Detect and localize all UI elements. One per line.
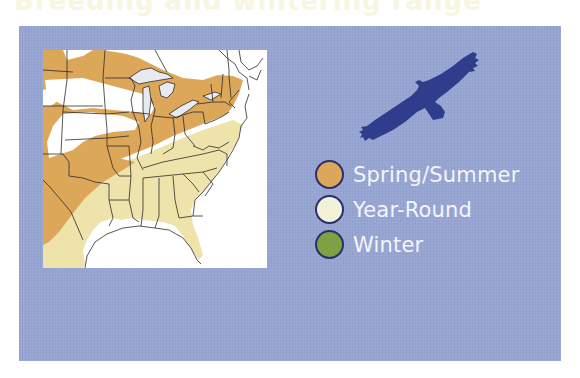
legend-item-year-round: Year-Round: [315, 192, 520, 227]
legend-label: Year-Round: [353, 198, 472, 222]
range-map-graphic: [43, 50, 267, 268]
legend-label: Spring/Summer: [353, 163, 520, 187]
range-map-panel: Spring/Summer Year-Round Winter: [19, 26, 561, 361]
year-round-swatch: [315, 195, 344, 224]
legend-label: Winter: [353, 233, 423, 257]
winter-swatch: [315, 230, 344, 259]
legend: Spring/Summer Year-Round Winter: [315, 157, 520, 262]
page-title: Breeding and wintering range: [14, 0, 314, 8]
range-map: [43, 50, 267, 268]
spring-summer-swatch: [315, 160, 344, 189]
legend-item-spring-summer: Spring/Summer: [315, 157, 520, 192]
legend-item-winter: Winter: [315, 227, 520, 262]
soaring-raptor-silhouette-icon: [359, 50, 481, 142]
